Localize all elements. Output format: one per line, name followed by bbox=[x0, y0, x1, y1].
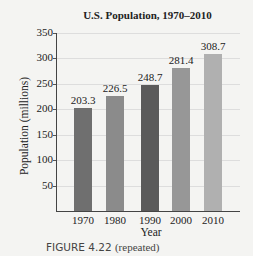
figure-caption: FIGURE 4.22 (repeated) bbox=[46, 241, 160, 253]
y-tick-label: 300 bbox=[29, 51, 53, 63]
bar-1980 bbox=[106, 96, 124, 211]
bar-1970 bbox=[74, 108, 92, 211]
y-tick-label: 350 bbox=[29, 26, 53, 38]
x-axis-line bbox=[56, 211, 240, 212]
x-tick-label: 1980 bbox=[95, 214, 135, 226]
y-tick-label: 200 bbox=[29, 102, 53, 114]
value-label: 308.7 bbox=[193, 40, 233, 52]
bar-2010 bbox=[204, 54, 222, 211]
bar-2000 bbox=[172, 68, 190, 211]
y-tick-label: 100 bbox=[29, 153, 53, 165]
y-axis-line bbox=[56, 33, 57, 211]
chart-title: U.S. Population, 1970–2010 bbox=[0, 9, 253, 21]
x-tick-label: 2010 bbox=[193, 214, 233, 226]
figure-note: (repeated) bbox=[115, 241, 160, 253]
value-label: 203.3 bbox=[63, 94, 103, 106]
gridline bbox=[57, 33, 240, 34]
value-label: 226.5 bbox=[95, 82, 135, 94]
x-axis-label: Year bbox=[126, 226, 176, 238]
y-tick-label: 50 bbox=[29, 179, 53, 191]
bar-1990 bbox=[141, 85, 159, 211]
value-label: 248.7 bbox=[130, 71, 170, 83]
y-tick-label: 250 bbox=[29, 77, 53, 89]
figure-number: FIGURE 4.22 bbox=[46, 241, 112, 253]
value-label: 281.4 bbox=[161, 54, 201, 66]
y-tick-label: 150 bbox=[29, 128, 53, 140]
